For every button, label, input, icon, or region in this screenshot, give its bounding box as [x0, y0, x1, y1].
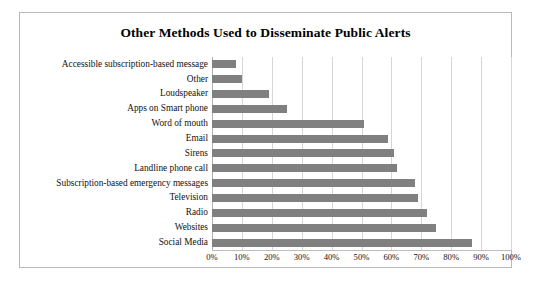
- gridline-100: [511, 57, 512, 250]
- bar-row: Sirens: [212, 146, 511, 161]
- category-label: Websites: [175, 223, 208, 232]
- x-tick-label: 60%: [384, 253, 400, 262]
- x-tick-label: 50%: [354, 253, 370, 262]
- bar: [212, 105, 287, 113]
- bar-row: Other: [212, 72, 511, 87]
- x-tick-label: 90%: [473, 253, 489, 262]
- x-tick-label: 30%: [294, 253, 310, 262]
- x-axis-line: [212, 250, 512, 251]
- category-label: Word of mouth: [151, 119, 208, 128]
- x-tick-label: 80%: [443, 253, 459, 262]
- bar-row: Television: [212, 191, 511, 206]
- category-label: Subscription-based emergency messages: [56, 179, 208, 188]
- bar-row: Websites: [212, 220, 511, 235]
- x-tick-label: 10%: [234, 253, 250, 262]
- bar-row: Loudspeaker: [212, 87, 511, 102]
- bar: [212, 164, 397, 172]
- bar-row: Subscription-based emergency messages: [212, 176, 511, 191]
- x-tick-label: 20%: [264, 253, 280, 262]
- category-label: Loudspeaker: [160, 89, 208, 98]
- x-tick-label: 70%: [413, 253, 429, 262]
- x-axis-tick-labels: 0%10%20%30%40%50%60%70%80%90%100%: [212, 253, 511, 267]
- category-label: Apps on Smart phone: [127, 104, 208, 113]
- bar: [212, 194, 418, 202]
- category-label: Social Media: [159, 238, 208, 247]
- bar-row: Email: [212, 131, 511, 146]
- category-label: Television: [169, 193, 208, 202]
- x-tick-label: 100%: [501, 253, 521, 262]
- category-label: Landline phone call: [134, 164, 208, 173]
- chart-title: Other Methods Used to Disseminate Public…: [20, 26, 511, 40]
- x-tick-label: 40%: [324, 253, 340, 262]
- bar: [212, 149, 394, 157]
- bar-rows: Accessible subscription-based messageOth…: [212, 57, 511, 250]
- bar: [212, 224, 436, 232]
- category-label: Accessible subscription-based message: [62, 60, 208, 69]
- bar-row: Radio: [212, 205, 511, 220]
- bar: [212, 179, 415, 187]
- plot-area: Accessible subscription-based messageOth…: [212, 57, 511, 250]
- bar-row: Accessible subscription-based message: [212, 57, 511, 72]
- bar: [212, 60, 236, 68]
- bar: [212, 75, 242, 83]
- bar: [212, 239, 472, 247]
- chart-figure: Other Methods Used to Disseminate Public…: [19, 12, 512, 268]
- category-label: Radio: [186, 208, 208, 217]
- category-label: Email: [186, 134, 208, 143]
- category-label: Other: [187, 75, 208, 84]
- bar: [212, 90, 269, 98]
- x-tick-label: 0%: [206, 253, 217, 262]
- bar-row: Apps on Smart phone: [212, 102, 511, 117]
- bar-row: Landline phone call: [212, 161, 511, 176]
- bar-row: Social Media: [212, 235, 511, 250]
- bar: [212, 135, 388, 143]
- category-label: Sirens: [185, 149, 208, 158]
- bar: [212, 120, 364, 128]
- bar-row: Word of mouth: [212, 116, 511, 131]
- bar: [212, 209, 427, 217]
